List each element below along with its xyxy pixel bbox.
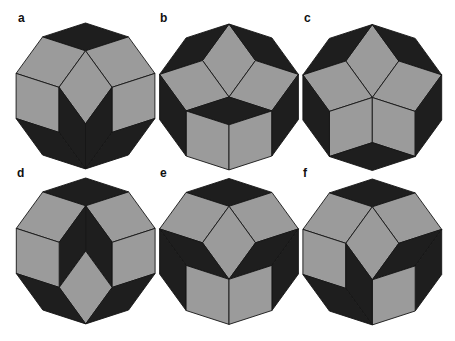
panel-label: b xyxy=(160,11,167,25)
panel-label: f xyxy=(303,166,308,180)
panel-d: d xyxy=(16,166,155,324)
panel-label: e xyxy=(160,166,167,180)
panel-label: d xyxy=(17,166,24,180)
decagon-tiling xyxy=(16,178,155,324)
panel-label: c xyxy=(304,11,311,25)
panel-a: a xyxy=(16,11,155,169)
panel-f: f xyxy=(303,166,442,325)
panel-e: e xyxy=(160,166,299,324)
decagon-tilings-figure: a b c d e f xyxy=(0,0,455,341)
decagon-tiling xyxy=(303,179,442,325)
decagon-tiling xyxy=(160,24,299,170)
panel-label: a xyxy=(18,11,25,25)
decagon-tiling xyxy=(16,23,155,169)
panel-b: b xyxy=(160,11,299,170)
decagon-tiling xyxy=(303,25,442,171)
decagon-tiling xyxy=(160,179,299,325)
panel-c: c xyxy=(303,11,442,171)
